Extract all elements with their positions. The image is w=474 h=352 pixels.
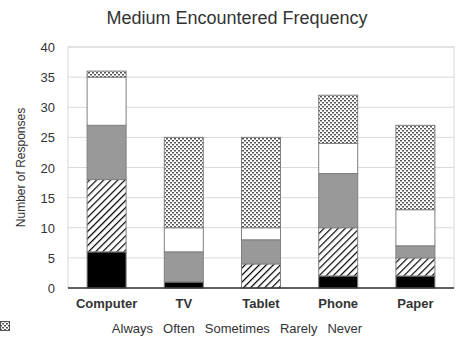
bar-segment-often bbox=[396, 258, 435, 276]
bar-segment-often bbox=[87, 180, 126, 252]
bar-segment-sometimes bbox=[87, 125, 126, 179]
x-tick-label: TV bbox=[175, 296, 192, 311]
legend-label: Always bbox=[112, 321, 153, 336]
bar-segment-often bbox=[319, 228, 358, 276]
x-tick-label: Computer bbox=[76, 296, 137, 311]
legend-label: Never bbox=[327, 321, 362, 336]
y-axis-label: Number of Responses bbox=[14, 108, 28, 227]
legend-swatch-icon bbox=[0, 321, 10, 331]
bar-segment-always bbox=[319, 276, 358, 288]
x-tick-label: Paper bbox=[397, 296, 433, 311]
y-tick-label: 5 bbox=[48, 251, 55, 266]
y-tick-label: 40 bbox=[41, 40, 55, 55]
bar-segment-rarely bbox=[164, 228, 203, 252]
x-tick-label: Phone bbox=[318, 296, 358, 311]
chart-legend: AlwaysOftenSometimesRarelyNever bbox=[0, 321, 474, 336]
bar-segment-never bbox=[319, 95, 358, 143]
y-tick-label: 10 bbox=[41, 221, 55, 236]
bar-segment-never bbox=[164, 137, 203, 227]
legend-label: Rarely bbox=[280, 321, 318, 336]
y-tick-label: 30 bbox=[41, 100, 55, 115]
y-tick-label: 35 bbox=[41, 70, 55, 85]
bar-segment-never bbox=[87, 71, 126, 77]
bar-segment-never bbox=[242, 137, 281, 227]
legend-label: Often bbox=[163, 321, 195, 336]
bar-segment-often bbox=[242, 264, 281, 288]
bar-segment-sometimes bbox=[242, 240, 281, 264]
chart-container: Medium Encountered Frequency 05101520253… bbox=[0, 0, 474, 352]
legend-item-rarely: Rarely bbox=[280, 321, 318, 336]
legend-label: Sometimes bbox=[205, 321, 270, 336]
y-tick-label: 15 bbox=[41, 191, 55, 206]
legend-item-often: Often bbox=[163, 321, 195, 336]
y-tick-label: 0 bbox=[48, 281, 55, 296]
y-tick-label: 20 bbox=[41, 161, 55, 176]
bar-segment-always bbox=[164, 282, 203, 288]
bar-segment-never bbox=[396, 125, 435, 209]
bar-segment-rarely bbox=[87, 77, 126, 125]
bar-segment-rarely bbox=[396, 210, 435, 246]
legend-item-sometimes: Sometimes bbox=[205, 321, 270, 336]
bar-segment-rarely bbox=[242, 228, 281, 240]
bar-segment-sometimes bbox=[396, 246, 435, 258]
y-tick-label: 25 bbox=[41, 130, 55, 145]
bar-segment-always bbox=[87, 252, 126, 288]
bar-segment-rarely bbox=[319, 143, 358, 173]
bar-segment-sometimes bbox=[319, 174, 358, 228]
chart-plot: 0510152025303540Number of ResponsesCompu… bbox=[0, 0, 474, 352]
legend-item-never: Never bbox=[327, 321, 362, 336]
bar-segment-sometimes bbox=[164, 252, 203, 282]
legend-item-always: Always bbox=[112, 321, 153, 336]
x-tick-label: Tablet bbox=[242, 296, 280, 311]
bar-segment-always bbox=[396, 276, 435, 288]
